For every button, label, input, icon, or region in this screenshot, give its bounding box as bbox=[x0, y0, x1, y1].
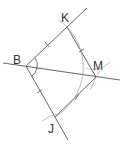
ray-bk bbox=[26, 8, 87, 66]
angle-mark-mbj bbox=[32, 68, 37, 76]
geometry-diagram: B K M J bbox=[0, 0, 125, 150]
label-b: B bbox=[13, 53, 21, 67]
label-m: M bbox=[93, 59, 103, 73]
label-k: K bbox=[61, 11, 69, 25]
construction-arc-m2 bbox=[90, 70, 100, 90]
ray-bj bbox=[26, 66, 68, 140]
label-j: J bbox=[48, 122, 54, 136]
angle-mark-kbm bbox=[35, 58, 37, 68]
segment-jm bbox=[55, 77, 96, 117]
